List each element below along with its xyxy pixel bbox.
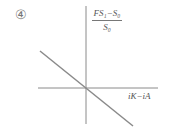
axes-diagram [0, 0, 171, 131]
y-label-denominator: S₀ [90, 22, 124, 33]
fraction-bar [92, 20, 122, 21]
y-axis-label: FS₁−S₀ S₀ [90, 8, 124, 33]
y-label-numerator: FS₁−S₀ [90, 8, 124, 19]
x-axis-label: iK−iA [128, 91, 151, 101]
